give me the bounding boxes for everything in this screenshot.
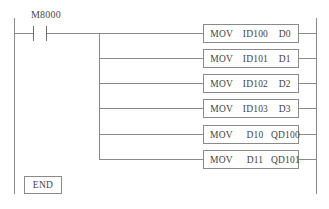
instruction-operation: MOV (204, 54, 239, 64)
output-wire-3 (298, 83, 317, 84)
instruction-operation: MOV (204, 79, 239, 89)
instruction-box[interactable]: MOV D11 QD101 (203, 150, 299, 169)
wire-rail-to-contact (14, 33, 33, 34)
end-block-label: END (33, 180, 53, 190)
output-wire-4 (298, 108, 317, 109)
instruction-source: ID103 (239, 104, 271, 114)
rung-wire-5 (99, 134, 204, 135)
instruction-source: ID101 (239, 54, 271, 64)
contact-m8000-label: M8000 (31, 9, 61, 20)
instruction-destination: QD101 (271, 155, 298, 165)
instruction-source: ID102 (239, 79, 271, 89)
instruction-box[interactable]: MOV ID101 D1 (203, 49, 299, 68)
end-block[interactable]: END (24, 176, 62, 194)
rung-wire-2 (99, 58, 204, 59)
output-wire-5 (298, 134, 317, 135)
instruction-destination: D3 (272, 104, 298, 114)
instruction-destination: D0 (272, 29, 298, 39)
output-wire-2 (298, 58, 317, 59)
instruction-box[interactable]: MOV D10 QD100 (203, 125, 299, 144)
instruction-operation: MOV (204, 104, 239, 114)
ladder-diagram: M8000 MOV ID100 D0 MOV ID101 D1 MOV ID10… (0, 0, 329, 209)
instruction-destination: D2 (272, 79, 298, 89)
instruction-source: D11 (239, 155, 271, 165)
instruction-source: D10 (239, 130, 271, 140)
contact-bar-left (33, 26, 34, 41)
rung-wire-6 (99, 159, 204, 160)
wire-contact-to-bus (46, 33, 100, 34)
left-power-rail (14, 18, 15, 194)
instruction-operation: MOV (204, 155, 239, 165)
instruction-operation: MOV (204, 130, 239, 140)
contact-bar-right (46, 26, 47, 41)
right-power-rail (316, 18, 317, 194)
instruction-box[interactable]: MOV ID103 D3 (203, 99, 299, 118)
instruction-operation: MOV (204, 29, 239, 39)
output-wire-6 (298, 159, 317, 160)
rung-wire-3 (99, 83, 204, 84)
instruction-box[interactable]: MOV ID100 D0 (203, 24, 299, 43)
rung-wire-4 (99, 108, 204, 109)
branch-bus (99, 33, 100, 159)
instruction-source: ID100 (239, 29, 271, 39)
output-wire-1 (298, 33, 317, 34)
contact-m8000[interactable] (33, 26, 47, 41)
rung-wire-1 (99, 33, 204, 34)
instruction-destination: D1 (272, 54, 298, 64)
instruction-box[interactable]: MOV ID102 D2 (203, 74, 299, 93)
instruction-destination: QD100 (271, 130, 298, 140)
